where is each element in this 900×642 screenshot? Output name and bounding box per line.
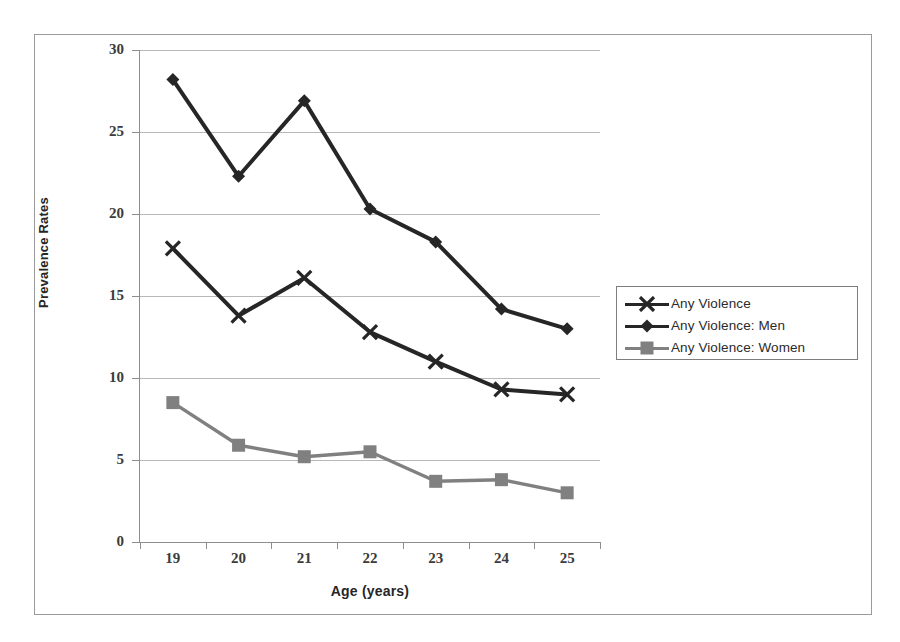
gridline — [140, 378, 600, 379]
legend-swatch-square-icon — [625, 341, 669, 355]
y-tick-label: 20 — [88, 206, 124, 221]
legend-label: Any Violence: Men — [671, 318, 785, 333]
y-tick-mark — [132, 460, 140, 461]
x-tick-label: 19 — [143, 551, 203, 566]
y-tick-mark — [132, 214, 140, 215]
data-point-diamond — [641, 319, 654, 332]
x-tick-label: 24 — [471, 551, 531, 566]
y-tick-label: 0 — [88, 534, 124, 549]
x-tick-mark — [206, 542, 207, 549]
x-tick-label: 25 — [537, 551, 597, 566]
legend-item[interactable]: Any Violence — [625, 293, 857, 314]
y-tick-mark — [132, 542, 140, 543]
x-axis-title: Age (years) — [140, 583, 600, 599]
chart-legend: Any ViolenceAny Violence: MenAny Violenc… — [616, 286, 858, 360]
x-tick-label: 21 — [274, 551, 334, 566]
y-tick-label: 10 — [88, 370, 124, 385]
y-tick-mark — [132, 50, 140, 51]
gridline — [140, 296, 600, 297]
x-tick-mark — [469, 542, 470, 549]
y-tick-label: 30 — [88, 42, 124, 57]
legend-item[interactable]: Any Violence: Women — [625, 337, 857, 358]
x-axis-line — [139, 542, 601, 543]
data-point-x-cross — [640, 297, 654, 311]
x-tick-label: 23 — [406, 551, 466, 566]
y-tick-mark — [132, 132, 140, 133]
gridline — [140, 214, 600, 215]
y-tick-label: 15 — [88, 288, 124, 303]
y-tick-mark — [132, 378, 140, 379]
y-tick-label: 5 — [88, 452, 124, 467]
y-tick-label: 25 — [88, 124, 124, 139]
gridline — [140, 460, 600, 461]
legend-item[interactable]: Any Violence: Men — [625, 315, 857, 336]
gridline — [140, 132, 600, 133]
legend-swatch-diamond-icon — [625, 319, 669, 333]
x-tick-label: 22 — [340, 551, 400, 566]
x-tick-mark — [140, 542, 141, 549]
legend-label: Any Violence — [671, 296, 751, 311]
legend-label: Any Violence: Women — [671, 340, 805, 355]
gridline — [140, 50, 600, 51]
x-tick-mark — [271, 542, 272, 549]
x-tick-mark — [337, 542, 338, 549]
x-tick-mark — [600, 542, 601, 549]
chart-figure: 051015202530 19202122232425 Age (years) … — [0, 0, 900, 642]
data-point-square — [641, 341, 654, 354]
x-tick-mark — [534, 542, 535, 549]
y-tick-mark — [132, 296, 140, 297]
legend-marker-x-cross-icon — [637, 296, 657, 312]
legend-marker-square-icon — [637, 340, 657, 356]
x-tick-mark — [403, 542, 404, 549]
legend-swatch-x-cross-icon — [625, 297, 669, 311]
y-axis-title: Prevalence Rates — [36, 173, 51, 333]
legend-marker-diamond-icon — [637, 318, 657, 334]
x-tick-label: 20 — [209, 551, 269, 566]
